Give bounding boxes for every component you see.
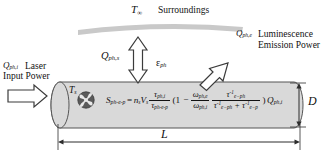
arrow-right-icon <box>8 85 47 107</box>
atom-icon <box>78 92 94 108</box>
laser-line2-label: Input Power <box>3 71 50 81</box>
eq-fraction-omega: ωph,e ωph,i <box>191 90 210 111</box>
length-label: L <box>161 128 168 141</box>
sample-temperature-label: Ts <box>69 85 77 96</box>
eq-close-paren: ) <box>263 95 266 105</box>
eq-minus: − <box>183 95 188 105</box>
luminescence-symbol-label: Qph,e <box>236 29 252 39</box>
emissivity-label: εph <box>156 58 166 69</box>
ambient-temperature-label: T∞ <box>131 4 142 16</box>
eq-coeff-n: ns <box>134 95 141 105</box>
eq-fraction-tau-inv: τ-1e−ph τ-1e−ph + τ-1e−p <box>212 90 260 111</box>
surroundings-label: Surroundings <box>158 5 209 15</box>
eq-coeff-v: Vs <box>140 95 148 105</box>
eq-open-paren: (1 <box>172 95 180 105</box>
cylinder-left-face <box>51 82 69 128</box>
arrow-up-down-icon <box>129 37 147 83</box>
eq-rhs: Qph,i <box>267 95 282 105</box>
laser-line1-label: Laser <box>25 61 46 71</box>
eq-equals: = <box>127 95 132 105</box>
source-term-equation: Sph-e-p = ns Vs τph,i τph-e-p (1 − ωph,e… <box>106 90 282 111</box>
eq-fraction-tau-ph: τph,i τph-e-p <box>149 90 170 111</box>
diameter-label: D <box>308 95 317 108</box>
heat-exchange-label: Qph,s <box>101 50 119 61</box>
surroundings-arc <box>78 24 243 35</box>
luminescence-line2-label: Emission Power <box>258 40 320 50</box>
luminescence-line1-label: Luminescence <box>258 29 313 39</box>
eq-lhs: Sph-e-p <box>106 95 125 105</box>
laser-symbol-label: Qph,i <box>3 61 18 71</box>
